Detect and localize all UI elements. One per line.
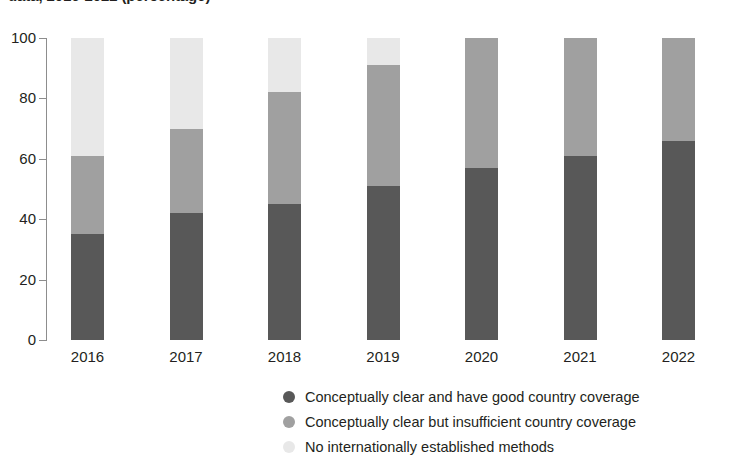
y-axis-tick-label: 0 — [0, 331, 36, 348]
bar-group[interactable] — [662, 38, 695, 340]
bar-segment-no-methods[interactable] — [170, 38, 203, 129]
bar-group[interactable] — [564, 38, 597, 340]
y-axis-tick-mark — [39, 159, 46, 160]
bar-group[interactable] — [465, 38, 498, 340]
y-axis-tick-mark — [39, 340, 46, 341]
bar-segment-insufficient-coverage[interactable] — [268, 92, 301, 204]
bar-segment-good-coverage[interactable] — [564, 156, 597, 340]
legend-item[interactable]: No internationally established methods — [283, 434, 743, 459]
y-axis-tick-mark — [39, 38, 46, 39]
x-axis-tick-label: 2019 — [353, 348, 413, 365]
chart-title: data, 2016-2022 (percentage) — [8, 0, 210, 4]
bar-segment-good-coverage[interactable] — [367, 186, 400, 340]
bar-segment-no-methods[interactable] — [268, 38, 301, 92]
bar-segment-no-methods[interactable] — [71, 38, 104, 156]
x-axis-tick-label: 2016 — [58, 348, 118, 365]
legend-item-label: Conceptually clear and have good country… — [305, 389, 640, 405]
x-axis-tick-label: 2017 — [156, 348, 216, 365]
bar-group[interactable] — [170, 38, 203, 340]
y-axis-tick-label: 80 — [0, 89, 36, 106]
bar-segment-insufficient-coverage[interactable] — [465, 38, 498, 168]
bar-segment-good-coverage[interactable] — [71, 234, 104, 340]
bar-segment-no-methods[interactable] — [367, 38, 400, 65]
legend-item[interactable]: Conceptually clear but insufficient coun… — [283, 409, 743, 434]
legend-swatch-circle-icon — [283, 416, 295, 428]
legend-item[interactable]: Conceptually clear and have good country… — [283, 384, 743, 409]
stacked-bar-chart: data, 2016-2022 (percentage) Conceptuall… — [0, 0, 747, 476]
x-axis-tick-label: 2021 — [550, 348, 610, 365]
bar-segment-insufficient-coverage[interactable] — [662, 38, 695, 141]
bar-segment-insufficient-coverage[interactable] — [71, 156, 104, 235]
y-axis-tick-mark — [39, 219, 46, 220]
bar-group[interactable] — [367, 38, 400, 340]
y-axis-tick-mark — [39, 98, 46, 99]
y-axis-tick-label: 100 — [0, 29, 36, 46]
legend-item-label: No internationally established methods — [305, 439, 554, 455]
bar-segment-insufficient-coverage[interactable] — [564, 38, 597, 156]
chart-legend: Conceptually clear and have good country… — [283, 384, 743, 459]
x-axis-tick-label: 2022 — [649, 348, 709, 365]
bar-group[interactable] — [268, 38, 301, 340]
bar-group[interactable] — [71, 38, 104, 340]
y-axis-tick-mark — [39, 280, 46, 281]
bar-segment-good-coverage[interactable] — [465, 168, 498, 340]
y-axis-tick-label: 60 — [0, 150, 36, 167]
x-axis-tick-label: 2018 — [255, 348, 315, 365]
bar-segment-good-coverage[interactable] — [662, 141, 695, 340]
y-axis-tick-label: 40 — [0, 210, 36, 227]
legend-swatch-circle-icon — [283, 391, 295, 403]
x-axis-tick-label: 2020 — [452, 348, 512, 365]
bar-segment-good-coverage[interactable] — [268, 204, 301, 340]
legend-item-label: Conceptually clear but insufficient coun… — [305, 414, 636, 430]
legend-swatch-circle-icon — [283, 441, 295, 453]
bar-segment-insufficient-coverage[interactable] — [170, 129, 203, 214]
bar-segment-insufficient-coverage[interactable] — [367, 65, 400, 186]
y-axis-tick-label: 20 — [0, 271, 36, 288]
bar-segment-good-coverage[interactable] — [170, 213, 203, 340]
